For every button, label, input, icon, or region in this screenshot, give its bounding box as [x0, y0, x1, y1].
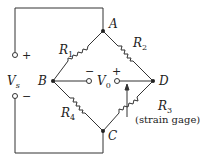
wire-b-r4: [53, 81, 70, 98]
node-d-label: D: [158, 74, 169, 88]
wheatstone-bridge-diagram: A B C D R1 R2 R3 (strain gage) R4 Vs + −…: [0, 0, 201, 162]
r3-label: R3: [157, 99, 172, 115]
wire-d-r3: [137, 81, 153, 97]
resistor-r3: [119, 97, 138, 113]
wire-a-r2: [103, 31, 118, 46]
resistor-r2: [118, 46, 133, 61]
vs-minus-sign: −: [22, 90, 31, 103]
node-d: [151, 79, 155, 83]
v0-plus-terminal: [115, 79, 120, 84]
v0-minus-terminal: [87, 79, 92, 84]
vs-plus-sign: +: [22, 49, 31, 62]
v0-plus-sign: +: [112, 65, 121, 78]
node-b-label: B: [37, 74, 47, 88]
r4-label: R4: [60, 106, 75, 122]
node-c-label: C: [108, 129, 117, 143]
wire-r1-b: [53, 61, 68, 81]
wire-r2-d: [133, 61, 153, 81]
node-b: [51, 79, 55, 83]
v0-label: V0: [97, 74, 111, 90]
wire-r4-c: [85, 113, 103, 131]
node-c: [101, 129, 105, 133]
resistor-r4: [70, 98, 85, 113]
vs-minus-terminal: [13, 94, 18, 99]
bottom-wire: [15, 98, 103, 153]
vs-plus-terminal: [13, 53, 18, 58]
node-a: [101, 29, 105, 33]
v0-minus-sign: −: [85, 65, 94, 78]
r1-label: R1: [58, 43, 73, 59]
r2-label: R2: [132, 36, 147, 52]
wire-a-r1: [88, 31, 103, 46]
node-a-label: A: [108, 17, 118, 31]
arrow-head-icon: [125, 84, 129, 90]
strain-gage-note: (strain gage): [135, 114, 200, 125]
vs-label: Vs: [7, 74, 20, 90]
